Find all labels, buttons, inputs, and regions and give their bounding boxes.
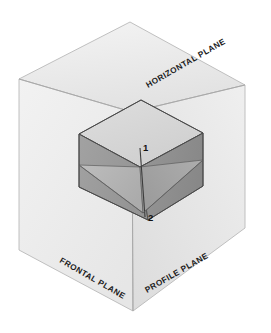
vertex-2-label: 2: [148, 212, 153, 223]
projection-diagram: HORIZONTAL PLANE FRONTAL PLANE PROFILE P…: [0, 0, 271, 333]
vertex-1-label: 1: [143, 142, 149, 153]
projection-diagram-canvas: HORIZONTAL PLANE FRONTAL PLANE PROFILE P…: [0, 0, 271, 333]
